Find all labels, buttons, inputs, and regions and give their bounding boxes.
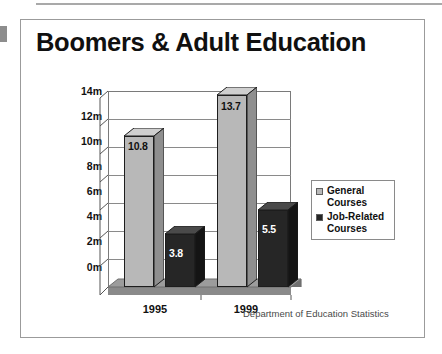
legend: General Courses Job-Related Courses [311,180,395,240]
y-tick-label: 4m [62,211,102,221]
source-note: Department of Education Statistics [243,308,389,319]
legend-swatch-icon [316,214,323,221]
x-tick-label-1995: 1995 [125,303,185,315]
scan-left-margin-mark [0,26,7,42]
bar-front-face [165,234,195,287]
y-tick-label: 14m [62,86,102,96]
chart-floor-front [108,287,291,295]
legend-swatch-icon [316,188,323,195]
bar-front-face [124,136,154,287]
y-tick-label: 8m [62,161,102,171]
bar-value-label: 13.7 [221,100,241,112]
bar-front-face [258,210,288,287]
legend-label: Job-Related Courses [327,211,390,234]
y-tick-label: 2m [62,236,102,246]
bar-chart: 14m 12m 10m 8m 6m 4m 2m 0m [20,19,425,338]
legend-item-general-courses[interactable]: General Courses [316,185,390,208]
bar-front-face [217,95,247,287]
y-tick-label: 12m [62,111,102,121]
y-tick-label: 10m [62,136,102,146]
bar-1999-general[interactable] [217,95,247,287]
bar-1999-job-related[interactable] [258,210,288,287]
bar-1995-job-related[interactable] [165,234,195,287]
bar-value-label: 10.8 [128,140,148,152]
bar-1995-general[interactable] [124,136,154,287]
y-tick-label: 6m [62,186,102,196]
y-tick-label: 0m [62,262,102,272]
legend-label: General Courses [327,185,390,208]
gridline [108,119,291,120]
legend-item-job-related-courses[interactable]: Job-Related Courses [316,211,390,234]
bar-value-label: 3.8 [169,247,183,259]
bar-value-label: 5.5 [262,223,276,235]
scan-top-rule [36,3,442,5]
y-axis: 14m 12m 10m 8m 6m 4m 2m 0m [56,19,102,338]
